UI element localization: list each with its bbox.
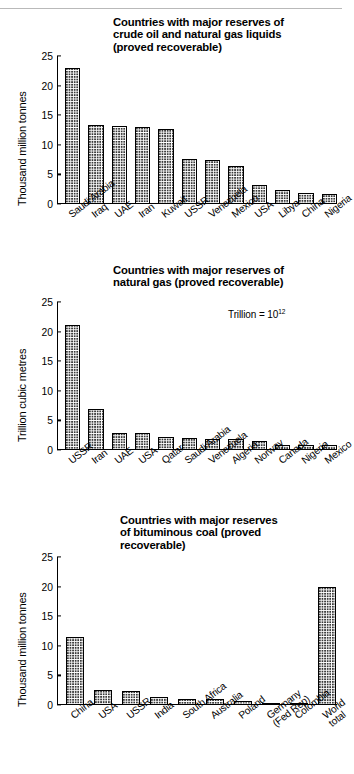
- y-tick-mark: [57, 331, 61, 332]
- y-tick-label: 10: [42, 139, 57, 150]
- chart-title: Countries with major reserves of crude o…: [113, 16, 339, 53]
- bar-series: [57, 56, 337, 204]
- y-tick-mark: [57, 115, 61, 116]
- y-tick-label: 15: [42, 356, 57, 367]
- bar: [158, 129, 174, 204]
- y-tick-label: 25: [42, 552, 57, 563]
- bar: [318, 587, 336, 705]
- chart-title: Countries with major reserves of natural…: [113, 264, 339, 289]
- chart-crude-oil: Countries with major reserves of crude o…: [0, 14, 342, 260]
- bar: [205, 160, 221, 204]
- bar-series: [57, 557, 337, 705]
- y-tick-mark: [57, 704, 61, 705]
- y-tick-label: 15: [42, 611, 57, 622]
- y-tick-mark: [57, 586, 61, 587]
- y-tick-label: 20: [42, 326, 57, 337]
- y-tick-mark: [57, 645, 61, 646]
- plot-area: 0510152025: [57, 557, 337, 705]
- plot-area: 0510152025: [57, 56, 337, 204]
- y-tick-label: 10: [42, 385, 57, 396]
- y-axis-title: Trillion cubic metres: [16, 349, 28, 442]
- bar: [65, 68, 81, 204]
- y-tick-label: 5: [47, 415, 57, 426]
- y-tick-label: 5: [47, 670, 57, 681]
- y-tick-mark: [57, 203, 61, 204]
- y-tick-label: 0: [47, 445, 57, 456]
- top-divider-rule: [0, 8, 342, 9]
- bar-series: [57, 302, 337, 450]
- bar: [112, 126, 128, 204]
- bar: [66, 637, 84, 705]
- y-tick-label: 0: [47, 700, 57, 711]
- y-axis-title: Thousand million tonnes: [16, 91, 28, 206]
- y-tick-label: 20: [42, 581, 57, 592]
- chart-title: Countries with major reserves of bitumin…: [120, 514, 340, 551]
- plot-area: 0510152025: [57, 302, 337, 450]
- y-tick-mark: [57, 144, 61, 145]
- y-tick-mark: [57, 361, 61, 362]
- x-tick-label-group: USSRIranUAEUSAQatarSaudi ArabiaVenezuela…: [57, 456, 342, 508]
- y-tick-mark: [57, 390, 61, 391]
- y-axis-title: Thousand million tonnes: [16, 592, 28, 707]
- y-tick-label: 0: [47, 199, 57, 210]
- y-tick-mark: [57, 174, 61, 175]
- y-tick-mark: [57, 449, 61, 450]
- y-tick-label: 10: [42, 640, 57, 651]
- x-tick-label-group: Saudi ArabiaIraqUAEIranKuwaitUSSRVenezue…: [57, 210, 342, 262]
- y-tick-mark: [57, 85, 61, 86]
- chart-bituminous-coal: Countries with major reserves of bitumin…: [0, 512, 342, 770]
- y-tick-label: 15: [42, 110, 57, 121]
- chart-natural-gas: Countries with major reserves of natural…: [0, 262, 342, 506]
- y-tick-mark: [57, 675, 61, 676]
- y-tick-mark: [57, 55, 61, 56]
- y-tick-label: 20: [42, 80, 57, 91]
- y-tick-mark: [57, 420, 61, 421]
- x-tick-label-group: ChinaUSAUSSRIndiaSouth AfricaAustraliaPo…: [57, 711, 342, 769]
- bar: [135, 127, 151, 204]
- x-tick-label: Iran: [137, 202, 156, 220]
- bar: [65, 325, 81, 451]
- y-tick-mark: [57, 301, 61, 302]
- y-tick-mark: [57, 616, 61, 617]
- y-tick-mark: [57, 556, 61, 557]
- y-tick-label: 25: [42, 51, 57, 62]
- y-tick-label: 5: [47, 169, 57, 180]
- y-tick-label: 25: [42, 297, 57, 308]
